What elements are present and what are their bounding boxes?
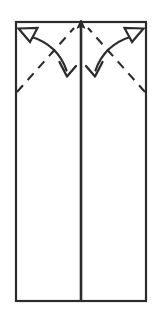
arrowhead-open-v-left-icon xyxy=(60,62,77,77)
arrowhead-open-v-right-icon xyxy=(86,62,103,77)
fold-diagram-svg xyxy=(0,0,158,321)
arrowhead-hollow-left-icon xyxy=(19,28,38,42)
diagram-root: Fold step diagram xyxy=(0,0,158,321)
arrowhead-hollow-right-icon xyxy=(125,28,144,42)
